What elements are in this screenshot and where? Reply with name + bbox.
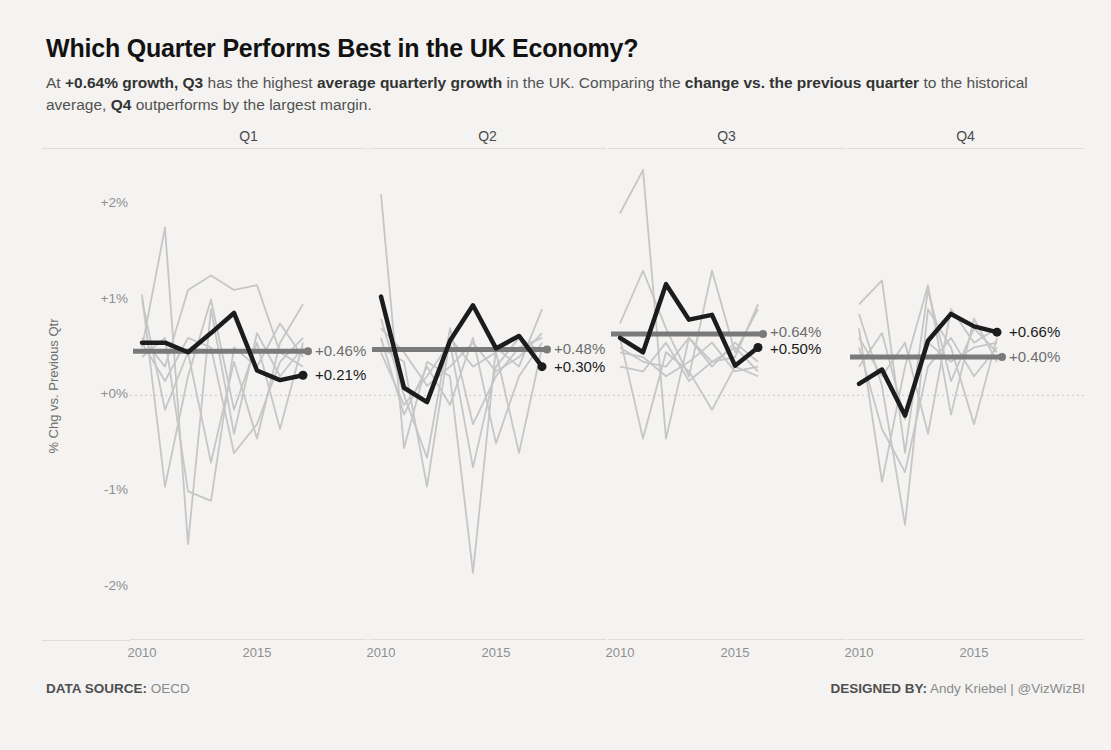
- uk-end-value-label: +0.30%: [554, 358, 605, 375]
- average-value-label: +0.46%: [315, 342, 366, 359]
- uk-end-value-label: +0.50%: [770, 340, 821, 357]
- average-end-marker: [543, 345, 551, 353]
- context-line: [142, 228, 303, 544]
- x-tick-label: 2015: [238, 645, 276, 660]
- panel-title: Q4: [847, 128, 1084, 148]
- data-source-label: DATA SOURCE:: [46, 681, 147, 696]
- average-end-marker: [759, 330, 767, 338]
- plot-area: +0.40%+0.66%: [847, 148, 1084, 640]
- designed-by: DESIGNED BY: Andy Kriebel | @VizWizBI: [830, 681, 1085, 696]
- x-tick-label: 2010: [362, 645, 400, 660]
- y-tick-label: -2%: [82, 578, 128, 593]
- panel-q4: Q4+0.40%+0.66%20102015: [847, 128, 1084, 667]
- page-title: Which Quarter Performs Best in the UK Ec…: [46, 34, 1085, 63]
- uk-end-value-label: +0.66%: [1009, 323, 1060, 340]
- axis-rule-bottom: [42, 640, 130, 641]
- subtitle-emphasis: Q3: [183, 74, 204, 91]
- subtitle: At +0.64% growth, Q3 has the highest ave…: [46, 72, 1061, 116]
- uk-end-value-label: +0.21%: [315, 366, 366, 383]
- y-axis-ticks: +2%+1%+0%-1%-2%: [82, 128, 128, 664]
- data-source: DATA SOURCE: OECD: [46, 681, 190, 696]
- panel-q3: Q3+0.64%+0.50%20102015: [608, 128, 845, 667]
- x-tick-label: 2015: [955, 645, 993, 660]
- x-tick-label: 2015: [477, 645, 515, 660]
- uk-line: [859, 314, 997, 416]
- designed-by-label: DESIGNED BY:: [830, 681, 927, 696]
- x-tick-label: 2010: [840, 645, 878, 660]
- x-axis: 20102015: [847, 643, 1084, 667]
- uk-end-marker: [993, 328, 1002, 337]
- subtitle-emphasis: +0.64% growth,: [65, 74, 178, 91]
- designed-by-value: Andy Kriebel | @VizWizBI: [930, 681, 1085, 696]
- footer: DATA SOURCE: OECD DESIGNED BY: Andy Krie…: [46, 681, 1085, 696]
- axis-rule-top: [42, 148, 130, 149]
- plot-area: +0.48%+0.30%: [369, 148, 606, 640]
- panel-title: Q1: [130, 128, 367, 148]
- panel-title: Q2: [369, 128, 606, 148]
- y-axis-title: % Chg vs. Previous Qtr: [46, 266, 62, 506]
- x-axis: 20102015: [130, 643, 367, 667]
- subtitle-text: At: [46, 74, 65, 91]
- uk-end-marker: [538, 362, 547, 371]
- y-tick-label: +1%: [82, 291, 128, 306]
- subtitle-emphasis: Q4: [111, 96, 132, 113]
- small-multiples-chart: % Chg vs. Previous Qtr +2%+1%+0%-1%-2% Q…: [46, 128, 1085, 664]
- plot-area: +0.64%+0.50%: [608, 148, 845, 640]
- plot-area: +0.46%+0.21%: [130, 148, 367, 640]
- average-value-label: +0.40%: [1009, 348, 1060, 365]
- panel-q1: Q1+0.46%+0.21%20102015: [130, 128, 367, 667]
- subtitle-text: in the UK. Comparing the: [502, 74, 685, 91]
- panel-title: Q3: [608, 128, 845, 148]
- x-axis: 20102015: [608, 643, 845, 667]
- uk-end-marker: [299, 371, 308, 380]
- data-source-value: OECD: [151, 681, 190, 696]
- subtitle-emphasis: average quarterly growth: [317, 74, 502, 91]
- y-tick-label: +0%: [82, 386, 128, 401]
- context-line: [620, 170, 758, 439]
- average-end-marker: [304, 347, 312, 355]
- x-tick-label: 2015: [716, 645, 754, 660]
- average-value-label: +0.48%: [554, 340, 605, 357]
- x-tick-label: 2010: [601, 645, 639, 660]
- panel-q2: Q2+0.48%+0.30%20102015: [369, 128, 606, 667]
- x-axis: 20102015: [369, 643, 606, 667]
- average-value-label: +0.64%: [770, 323, 821, 340]
- subtitle-text: outperforms by the largest margin.: [131, 96, 371, 113]
- panels-container: Q1+0.46%+0.21%20102015Q2+0.48%+0.30%2010…: [130, 128, 1084, 667]
- average-end-marker: [998, 353, 1006, 361]
- viz-page: Which Quarter Performs Best in the UK Ec…: [0, 0, 1111, 750]
- y-tick-label: +2%: [82, 195, 128, 210]
- y-tick-label: -1%: [82, 482, 128, 497]
- subtitle-text: has the highest: [203, 74, 317, 91]
- uk-end-marker: [754, 343, 763, 352]
- subtitle-emphasis: change vs. the previous quarter: [685, 74, 919, 91]
- x-tick-label: 2010: [123, 645, 161, 660]
